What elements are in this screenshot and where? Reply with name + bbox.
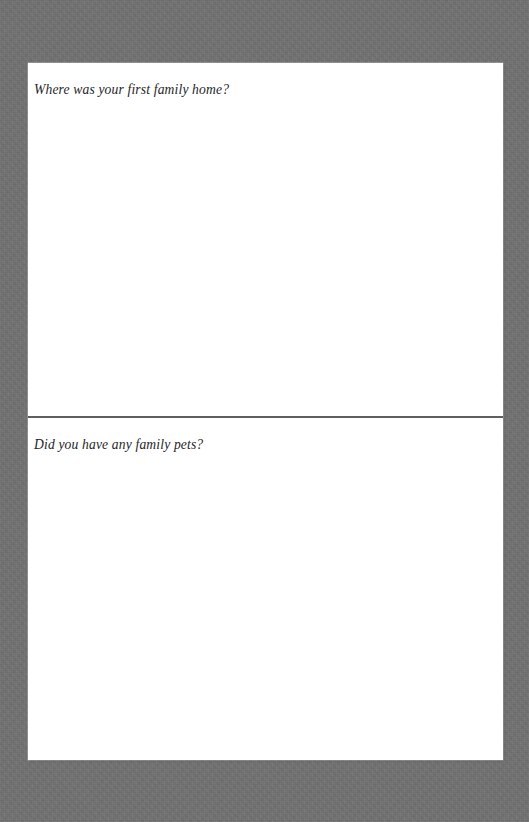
prompt-section-family-pets: Did you have any family pets? (28, 418, 503, 760)
prompt-question-first-family-home: Where was your first family home? (28, 63, 503, 99)
answer-area-first-family-home[interactable] (28, 99, 503, 409)
journal-page-sheet: Where was your first family home? Did yo… (28, 63, 503, 760)
prompt-section-first-family-home: Where was your first family home? (28, 63, 503, 416)
prompt-question-family-pets: Did you have any family pets? (28, 418, 503, 454)
answer-area-family-pets[interactable] (28, 454, 503, 754)
